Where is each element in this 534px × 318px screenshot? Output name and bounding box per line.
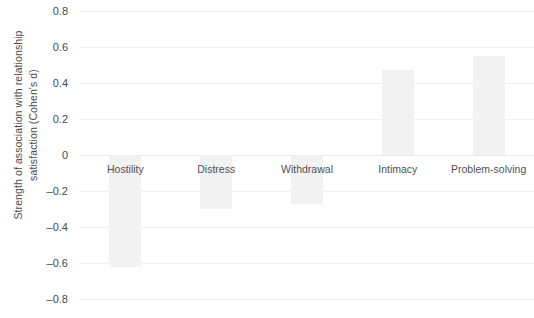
y-tick-label: 0.4 [53,77,68,89]
category-label: Problem-solving [451,163,526,175]
category-label: Distress [197,163,235,175]
y-tick-label: 0 [62,149,68,161]
x-axis-category-labels: HostilityDistressWithdrawalIntimacyProbl… [80,0,534,318]
y-tick-label: –0.8 [47,293,68,305]
y-tick-label: –0.2 [47,185,68,197]
category-label: Withdrawal [281,163,333,175]
bar-chart: Strength of association with relationshi… [0,0,534,318]
y-tick-label: –0.6 [47,257,68,269]
y-tick-label: 0.8 [53,5,68,17]
y-tick-label: 0.2 [53,113,68,125]
y-tick-label: –0.4 [47,221,68,233]
y-tick-label: 0.6 [53,41,68,53]
category-label: Hostility [107,163,144,175]
y-axis-tick-labels: 0.80.60.40.20–0.2–0.4–0.6–0.8 [0,0,76,318]
category-label: Intimacy [378,163,417,175]
plot-area: HostilityDistressWithdrawalIntimacyProbl… [80,0,534,318]
